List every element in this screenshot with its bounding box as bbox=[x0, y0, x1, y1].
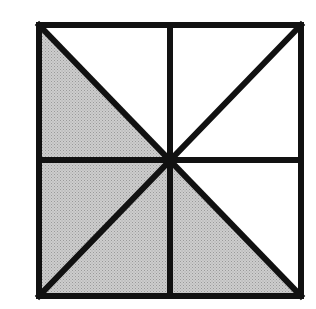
division-lines bbox=[39, 25, 301, 296]
divided-square-diagram bbox=[0, 0, 316, 309]
